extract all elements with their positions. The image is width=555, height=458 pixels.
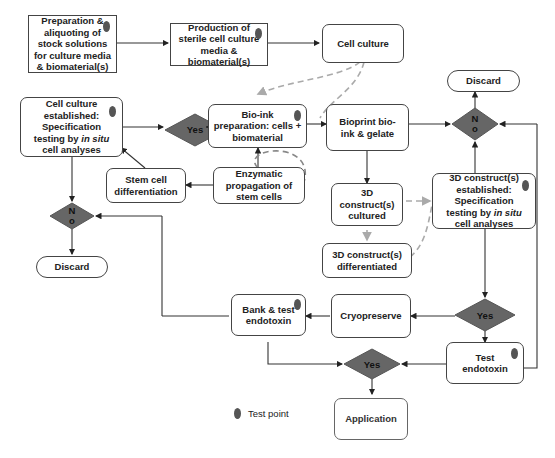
construct-differentiated-box: 3D construct(s) differentiated <box>322 243 412 278</box>
decision-no-left-label: N o <box>65 206 79 226</box>
cryopreserve-box: Cryopreserve <box>331 294 411 338</box>
cell-culture-box: Cell culture <box>322 24 404 63</box>
test-point-icon <box>109 106 116 117</box>
test-point-icon <box>511 348 518 359</box>
bioink-preparation-box: Bio-ink preparation: cells + biomaterial <box>208 104 307 148</box>
test-endotoxin-box: Test endotoxin <box>446 342 524 384</box>
test-point-icon <box>522 180 529 191</box>
construct-cultured-box: 3D construct(s) cultured <box>331 183 403 226</box>
decision-no-right-label: N o <box>468 114 482 134</box>
legend-label: Test point <box>248 408 289 419</box>
cell-culture-established-box: Cell culture established: Specification … <box>20 97 123 157</box>
test-point-icon <box>255 28 262 39</box>
decision-yes-right-label: Yes <box>470 311 500 321</box>
legend: Test point <box>234 408 289 419</box>
production-media-box: Production of sterile cell culture media… <box>170 23 268 66</box>
bank-test-endotoxin-box: Bank & test endotoxin <box>231 294 306 336</box>
discard-left-terminal: Discard <box>36 256 108 278</box>
prep-stock-solutions-box: Preparation & aliquoting of stock soluti… <box>28 15 117 73</box>
stem-cell-differentiation-box: Stem cell differentiation <box>106 168 186 203</box>
bioprint-box: Bioprint bio- ink & gelate <box>326 104 409 151</box>
test-point-icon <box>294 299 301 310</box>
decision-yes-bottom-label: Yes <box>357 360 387 370</box>
test-point-icon <box>103 21 110 32</box>
construct-established-box: 3D construct(s) established: Specificati… <box>432 173 536 229</box>
discard-top-terminal: Discard <box>447 70 520 92</box>
decision-yes-top-label: Yes <box>180 125 210 135</box>
test-point-icon <box>294 110 301 121</box>
application-terminal: Application <box>334 398 408 440</box>
test-point-icon <box>234 408 241 419</box>
enzymatic-propagation-box: Enzymatic propagation of stem cells <box>213 167 305 204</box>
